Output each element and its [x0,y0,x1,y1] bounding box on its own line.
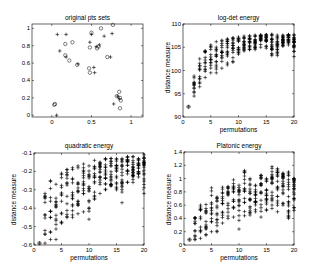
svg-text:0.4: 0.4 [174,215,183,221]
svg-text:0: 0 [32,247,36,253]
svg-text:10: 10 [235,119,242,125]
svg-text:1.2: 1.2 [174,162,183,168]
svg-text:0.2: 0.2 [174,229,183,235]
svg-text:10: 10 [236,247,243,253]
svg-text:0.8: 0.8 [174,189,183,195]
panel-quadratic-energy: quadratic energy distance measure permut… [0,136,156,272]
svg-text:0: 0 [182,247,186,253]
svg-text:5: 5 [209,119,213,125]
svg-text:-0.5: -0.5 [22,224,33,230]
svg-text:15: 15 [263,247,270,253]
scatter-plot-platonic: 0510152000.20.40.60.811.21.4 [156,136,313,272]
svg-text:110: 110 [171,21,181,27]
svg-text:0.8: 0.8 [22,43,31,49]
svg-text:15: 15 [263,119,270,125]
svg-text:90: 90 [174,114,181,120]
svg-text:20: 20 [291,119,298,125]
svg-text:0.4: 0.4 [22,77,31,83]
panel-platonic-energy: Platonic energy distance measure permuta… [156,136,313,272]
svg-text:0.2: 0.2 [22,95,31,101]
panel-original-pts: original pts sets 00.5100.20.40.60.81 [0,0,156,136]
svg-text:10: 10 [86,247,93,253]
scatter-plot-original: 00.5100.20.40.60.81 [0,0,156,136]
svg-text:-0.4: -0.4 [22,205,33,211]
svg-text:20: 20 [291,247,298,253]
scatter-plot-log-det: 051015209095100105110 [156,0,313,136]
panel-log-det-energy: log-det energy distance measure permutat… [156,0,313,136]
svg-text:-0.3: -0.3 [22,187,33,193]
svg-text:1: 1 [129,119,133,125]
svg-text:0.5: 0.5 [87,119,96,125]
svg-text:0: 0 [27,112,31,118]
svg-text:1: 1 [27,25,31,31]
svg-text:5: 5 [60,247,64,253]
svg-text:20: 20 [141,247,148,253]
svg-text:95: 95 [174,91,181,97]
svg-text:1: 1 [179,176,183,182]
svg-text:0: 0 [181,119,185,125]
svg-text:-0.1: -0.1 [22,150,33,156]
svg-text:0.6: 0.6 [22,60,31,66]
svg-text:15: 15 [113,247,120,253]
svg-text:0.6: 0.6 [174,202,183,208]
svg-text:-0.6: -0.6 [22,242,33,248]
svg-text:0: 0 [50,119,54,125]
svg-text:5: 5 [210,247,214,253]
svg-text:1.4: 1.4 [174,149,183,155]
svg-text:100: 100 [171,68,182,74]
svg-text:-0.2: -0.2 [22,168,33,174]
scatter-plot-quadratic: 05101520-0.6-0.5-0.4-0.3-0.2-0.1 [0,136,156,272]
svg-text:105: 105 [171,44,182,50]
